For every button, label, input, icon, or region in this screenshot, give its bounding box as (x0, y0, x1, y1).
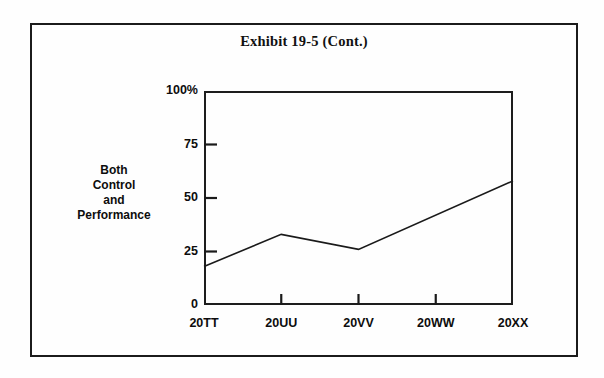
y-axis-tick-label: 0 (152, 297, 198, 311)
x-axis-tick-label: 20UU (265, 316, 297, 330)
x-axis-tick-label: 20TT (189, 316, 218, 330)
line-chart-svg (204, 91, 513, 305)
data-series-line (204, 181, 513, 267)
x-axis-ticks (281, 294, 436, 305)
page-title: Exhibit 19-5 (Cont.) (30, 33, 578, 50)
x-axis-tick-label: 20WW (417, 316, 455, 330)
y-axis-ticks (204, 145, 217, 252)
y-axis-tick-label: 100% (152, 83, 198, 97)
x-axis-tick-label: 20VV (343, 316, 374, 330)
y-axis-tick-label: 75 (152, 137, 198, 151)
x-axis-tick-labels: 20TT20UU20VV20WW20XX (204, 316, 513, 334)
y-axis-tick-label: 25 (152, 244, 198, 258)
exhibit-screenshot: Exhibit 19-5 (Cont.) Both Control and Pe… (0, 0, 604, 378)
x-axis-tick-label: 20XX (498, 316, 529, 330)
y-axis-tick-label: 50 (152, 190, 198, 204)
